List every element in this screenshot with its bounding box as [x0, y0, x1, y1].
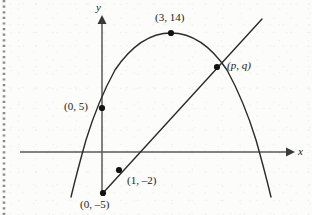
parabola-curve	[71, 33, 271, 197]
point-marker-pq	[214, 64, 220, 70]
y-axis-arrowhead	[98, 15, 107, 24]
point-label-1-neg2: (1, –2)	[127, 175, 156, 186]
point-label-0-neg5: (0, –5)	[80, 199, 109, 210]
y-axis-label: y	[96, 2, 101, 13]
point-marker-y-intercept-line	[100, 190, 106, 196]
point-label-p-q: (p, q)	[227, 60, 251, 71]
point-marker-y-intercept-parabola	[99, 105, 105, 111]
x-axis-label: x	[298, 146, 303, 157]
point-marker-vertex	[168, 30, 174, 36]
point-marker-line-1-neg2	[116, 167, 122, 173]
x-axis-arrowhead	[286, 148, 295, 157]
straight-line	[103, 19, 262, 193]
point-label-3-14: (3, 14)	[155, 12, 184, 23]
point-label-0-5: (0, 5)	[64, 101, 88, 112]
graph-figure: (3, 14) (p, q) (0, 5) (1, –2) (0, –5) x …	[0, 0, 312, 215]
